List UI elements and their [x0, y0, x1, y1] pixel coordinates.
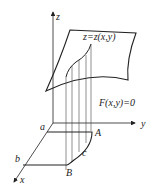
surface-curve: [66, 44, 91, 77]
point-c-label: c: [82, 147, 87, 158]
point-A-label: A: [94, 127, 102, 138]
projection-lines: [66, 44, 91, 170]
point-B-label: B: [66, 167, 72, 178]
z-axis-label: z: [55, 11, 60, 22]
surface-label: z=z(x,y): [82, 31, 116, 43]
point-b-label: b: [15, 153, 20, 164]
point-a-label: a: [40, 121, 45, 132]
cylinder-label: F(x,y)=0: [98, 97, 135, 109]
y-axis-label: y: [140, 118, 146, 129]
x-axis-label: x: [19, 174, 25, 185]
surface-diagram: z y x z=z(x,y) F(x,y)=0 a A b B c: [0, 0, 156, 192]
